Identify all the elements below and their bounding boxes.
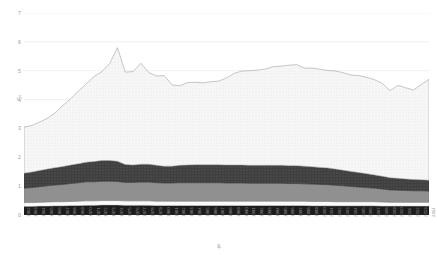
- x-tick-label: 2012: [415, 207, 420, 217]
- x-tick-label: 2008: [384, 207, 389, 217]
- y-tick-label: 5: [8, 68, 21, 74]
- y-tick-label: 7: [8, 10, 21, 16]
- y-tick-label: 3: [8, 125, 21, 131]
- x-tick-label: 1999: [314, 207, 319, 217]
- x-tick-label: 2014: [431, 207, 436, 217]
- x-tick-label: 2011: [407, 208, 412, 217]
- y-tick-label: 6: [8, 39, 21, 45]
- x-tick-label: 1994: [275, 207, 280, 217]
- y-tick-label: 2: [8, 154, 21, 160]
- x-tick-label: 1988: [228, 207, 233, 217]
- x-tick-label: 2005: [361, 207, 366, 217]
- x-tick-label: 1973: [111, 207, 116, 217]
- x-tick-label: 2006: [368, 207, 373, 217]
- x-tick-label: 1984: [197, 207, 202, 217]
- x-tick-label: 2004: [353, 207, 358, 217]
- x-tick-label: 2009: [392, 207, 397, 217]
- x-tick-label: 1982: [181, 207, 186, 217]
- stacked-area-chart: 万t 01234567 1962196319: [0, 0, 437, 255]
- x-tick-label: 1996: [290, 207, 295, 217]
- x-tick-label: 1998: [306, 207, 311, 217]
- x-tick-label: 1971: [96, 207, 101, 217]
- x-tick-label: 1980: [166, 207, 171, 217]
- x-tick-label: 1974: [119, 207, 124, 217]
- x-tick-label: 1965: [49, 207, 54, 217]
- x-tick-label: 1964: [41, 207, 46, 217]
- x-tick-label: 1986: [213, 207, 218, 217]
- x-tick-label: 1983: [189, 207, 194, 217]
- x-tick-label: 1993: [267, 207, 272, 217]
- x-tick-label: 1990: [244, 207, 249, 217]
- x-tick-label: 1981: [174, 207, 179, 217]
- x-tick-label: 1995: [283, 207, 288, 217]
- y-tick-label: 0: [8, 212, 21, 218]
- x-tick-label: 2010: [399, 207, 404, 217]
- x-tick-label: 2003: [345, 207, 350, 217]
- x-tick-label: 1968: [72, 207, 77, 217]
- x-tick-label: 1962: [26, 207, 31, 217]
- x-tick-label: 1966: [57, 207, 62, 217]
- x-tick-label: 1963: [33, 207, 38, 217]
- x-tick-label: 1997: [298, 207, 303, 217]
- x-tick-label: 1989: [236, 207, 241, 217]
- x-tick-label: 2000: [322, 207, 327, 217]
- x-axis-title: 年: [0, 243, 437, 249]
- x-tick-label: 1970: [88, 207, 93, 217]
- x-tick-label: 1975: [127, 207, 132, 217]
- area-bands: [24, 48, 429, 215]
- x-tick-label: 1972: [103, 207, 108, 217]
- plot-svg: [24, 13, 429, 215]
- x-tick-label: 1987: [220, 207, 225, 217]
- x-axis-tick-labels: 1962196319641965196619671968196919701971…: [24, 217, 429, 241]
- x-tick-label: 2007: [376, 207, 381, 217]
- x-tick-label: 1967: [65, 207, 70, 217]
- plot-area: [24, 13, 429, 215]
- x-tick-label: 1991: [251, 207, 256, 217]
- x-tick-label: 2013: [423, 207, 428, 217]
- y-tick-label: 4: [8, 97, 21, 103]
- x-tick-label: 1979: [158, 207, 163, 217]
- x-tick-label: 1978: [150, 207, 155, 217]
- x-tick-label: 2002: [337, 207, 342, 217]
- x-tick-label: 1992: [259, 207, 264, 217]
- y-tick-label: 1: [8, 183, 21, 189]
- x-tick-label: 2001: [329, 207, 334, 217]
- x-tick-label: 1977: [142, 207, 147, 217]
- x-tick-label: 1969: [80, 207, 85, 217]
- area-band: [24, 48, 429, 181]
- x-tick-label: 1985: [205, 207, 210, 217]
- x-tick-label: 1976: [135, 207, 140, 217]
